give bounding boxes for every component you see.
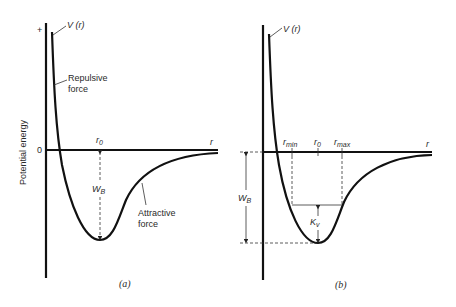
panel-a-caption: (a)	[119, 278, 131, 290]
panel-a-vr-label: V (r)	[67, 20, 85, 30]
panel-a: + 0 V (r) Repulsive force r0 r WB Attrac…	[37, 20, 218, 290]
panel-a-plus-mark: +	[37, 25, 42, 35]
panel-b-rmax-label: rmax	[334, 137, 351, 148]
panel-b-rmin-label: rmin	[283, 137, 297, 148]
panel-b-vr-leader	[270, 28, 282, 37]
panel-a-repulsive-label-2: force	[68, 84, 88, 94]
panel-a-potential-curve	[52, 32, 218, 240]
panel-a-zero-mark: 0	[37, 145, 42, 155]
potential-energy-diagram: Potential energy + 0 V (r) Repulsive for…	[0, 0, 456, 307]
panel-a-r0-label: r0	[96, 135, 103, 146]
panel-b-caption: (b)	[335, 279, 347, 291]
panel-a-attractive-label-2: force	[138, 219, 158, 229]
panel-a-repulsive-leader	[54, 80, 67, 85]
panel-a-attractive-label: Attractive	[138, 208, 176, 218]
panel-b-vr-label: V (r)	[283, 24, 301, 34]
panel-a-vr-leader	[53, 26, 66, 35]
panel-a-repulsive-label: Repulsive	[68, 73, 108, 83]
panel-b-potential-curve	[269, 34, 432, 243]
y-axis-label: Potential energy	[18, 119, 28, 185]
panel-b-r-axis-label: r	[426, 139, 430, 149]
panel-b-r0-label: r0	[314, 137, 321, 148]
panel-a-attractive-leader	[142, 183, 146, 205]
panel-a-r-axis-label: r	[210, 137, 214, 147]
panel-b: V (r) rmin r0 rmax r Kv WB (b)	[236, 24, 432, 291]
